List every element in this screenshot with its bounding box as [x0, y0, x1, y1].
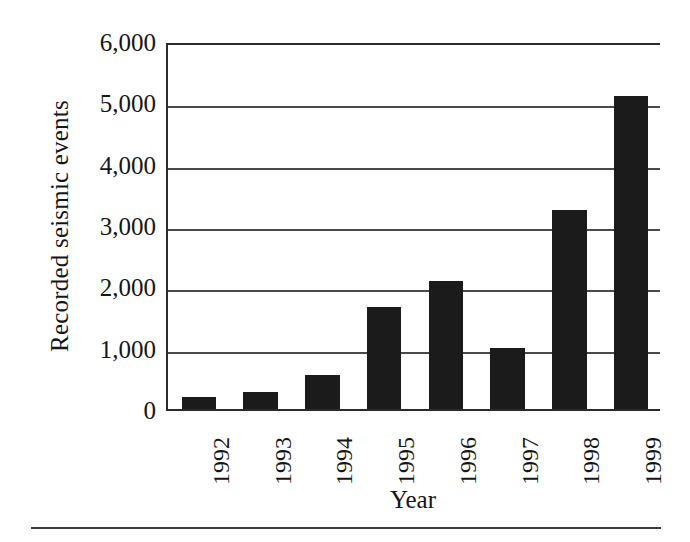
x-tick-label: 1994 — [332, 437, 356, 485]
x-tick-label: 1997 — [518, 437, 542, 485]
x-tick-label: 1995 — [394, 437, 418, 485]
y-tick-label: 6,000 — [56, 30, 156, 55]
y-tick-label: 1,000 — [56, 337, 156, 362]
y-tick-label: 2,000 — [56, 275, 156, 300]
x-tick-label: 1996 — [456, 437, 480, 485]
bar — [182, 397, 217, 409]
y-tick-label: 5,000 — [56, 91, 156, 116]
x-tick-label: 1993 — [271, 437, 295, 485]
bottom-horizontal-rule — [31, 527, 661, 529]
x-tick-label: 1999 — [641, 437, 665, 485]
bar — [367, 307, 402, 409]
bar — [490, 348, 525, 409]
y-tick-label: 3,000 — [56, 214, 156, 239]
y-tick-label: 4,000 — [56, 153, 156, 178]
bar — [305, 375, 340, 409]
seismic-events-bar-chart: Recorded seismic events 01,0002,0003,000… — [0, 0, 690, 542]
bar — [429, 281, 464, 409]
plot-area — [166, 43, 660, 411]
x-axis-title: Year — [166, 486, 660, 514]
x-tick-label: 1998 — [579, 437, 603, 485]
bars-layer — [168, 45, 660, 409]
y-tick-label: 0 — [56, 398, 156, 423]
x-axis-tick-labels: 19921993199419951996199719981999 — [166, 411, 660, 491]
x-tick-label: 1992 — [209, 437, 233, 485]
y-axis-tick-labels: 01,0002,0003,0004,0005,0006,000 — [52, 0, 156, 542]
bar — [243, 392, 278, 409]
bar — [614, 96, 649, 409]
bar — [552, 210, 587, 409]
